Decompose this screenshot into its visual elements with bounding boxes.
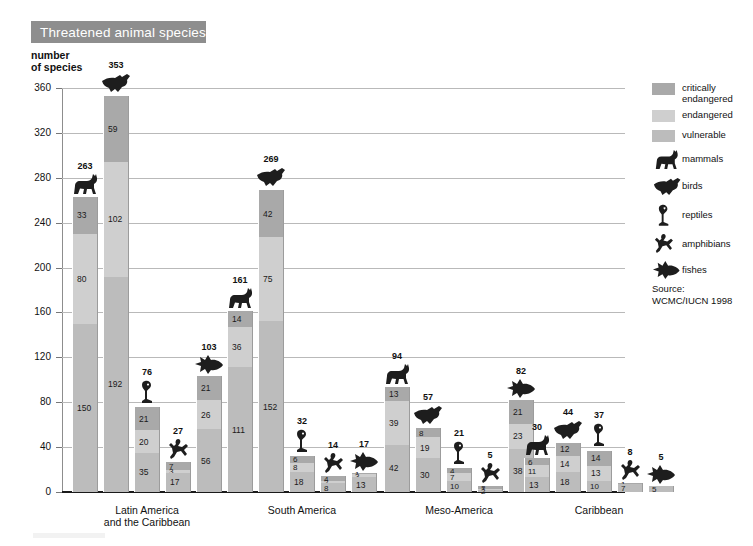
legend-item-endangered[interactable]: endangered bbox=[652, 109, 748, 124]
gridline bbox=[62, 178, 625, 179]
amphibian-icon bbox=[652, 233, 675, 254]
bar-mammals[interactable]: 1436111161 bbox=[227, 311, 253, 492]
y-tick-label: 280 bbox=[11, 172, 51, 183]
legend: critically endangeredendangeredvulnerabl… bbox=[652, 82, 748, 285]
bar-birds[interactable]: 12141844 bbox=[555, 443, 581, 492]
segment-value-label: 36 bbox=[232, 343, 241, 352]
legend-item-mammals[interactable]: mammals bbox=[652, 149, 748, 170]
bar-segment-vulnerable: 5 bbox=[648, 486, 674, 492]
bar-segment-vulnerable: 17 bbox=[165, 473, 191, 492]
gridline bbox=[62, 88, 625, 89]
bar-total-label: 94 bbox=[367, 351, 427, 361]
segment-value-label: 13 bbox=[356, 480, 365, 489]
legend-item-amphibians[interactable]: amphibians bbox=[652, 233, 748, 254]
bar-segment-endangered: 26 bbox=[196, 400, 222, 429]
category-label: Caribbean bbox=[504, 504, 694, 516]
bar-segment-critically-endangered: 6 bbox=[524, 458, 550, 465]
bar-fishes[interactable]: 55 bbox=[648, 486, 674, 492]
fish-icon bbox=[499, 378, 543, 398]
bird-icon bbox=[406, 404, 450, 426]
mammal-icon bbox=[63, 173, 107, 195]
segment-value-label: 8 bbox=[419, 428, 423, 437]
bar-segment-critically-endangered: 33 bbox=[72, 197, 98, 234]
segment-value-label: 42 bbox=[263, 209, 272, 218]
bar-fishes[interactable]: 131317 bbox=[351, 473, 377, 492]
legend-label: birds bbox=[682, 181, 703, 192]
segment-value-label: 102 bbox=[108, 215, 122, 224]
y-tick-mark bbox=[56, 268, 62, 269]
legend-label: endangered bbox=[682, 109, 733, 121]
bar-segment-endangered: 36 bbox=[227, 327, 253, 367]
segment-value-label: 75 bbox=[263, 275, 272, 284]
bar-total-label: 57 bbox=[398, 392, 458, 402]
bar-mammals[interactable]: 13394294 bbox=[384, 387, 410, 492]
bar-amphibians[interactable]: 42814 bbox=[320, 476, 346, 492]
fish-icon bbox=[187, 354, 231, 374]
y-tick-mark bbox=[56, 178, 62, 179]
bar-total-label: 269 bbox=[241, 154, 301, 164]
segment-value-label: 10 bbox=[590, 482, 599, 491]
segment-value-label: 26 bbox=[201, 410, 210, 419]
legend-swatch bbox=[652, 130, 675, 142]
bar-segment-vulnerable: 56 bbox=[196, 429, 222, 492]
y-tick-mark bbox=[56, 447, 62, 448]
legend-swatch bbox=[652, 110, 675, 122]
bar-segment-endangered: 11 bbox=[524, 465, 550, 477]
chart-canvas: Threatened animal species number of spec… bbox=[0, 0, 753, 546]
bar-segment-vulnerable: 7 bbox=[617, 484, 643, 492]
y-tick-mark bbox=[56, 312, 62, 313]
segment-value-label: 18 bbox=[560, 477, 569, 486]
y-tick-mark bbox=[56, 357, 62, 358]
legend-label: mammals bbox=[682, 154, 723, 165]
segment-value-label: 13 bbox=[591, 469, 600, 478]
bar-total-label: 5 bbox=[631, 452, 691, 462]
y-tick-mark bbox=[56, 133, 62, 134]
footer-artifact bbox=[33, 533, 105, 538]
segment-value-label: 42 bbox=[389, 464, 398, 473]
y-tick-label: 120 bbox=[11, 351, 51, 362]
segment-value-label: 150 bbox=[77, 403, 91, 412]
bar-segment-critically-endangered: 59 bbox=[103, 96, 129, 162]
bar-amphibians[interactable]: 731727 bbox=[165, 462, 191, 492]
bar-segment-critically-endangered: 14 bbox=[227, 311, 253, 327]
legend-item-reptiles[interactable]: reptiles bbox=[652, 203, 748, 228]
y-tick-mark bbox=[56, 492, 62, 493]
fish-icon bbox=[639, 464, 683, 484]
bar-total-label: 37 bbox=[569, 410, 629, 420]
legend-label: amphibians bbox=[682, 239, 731, 250]
legend-item-fishes[interactable]: fishes bbox=[652, 260, 748, 279]
legend-label: reptiles bbox=[682, 210, 713, 221]
amphibian-icon bbox=[156, 438, 200, 460]
bar-segment-vulnerable: 152 bbox=[258, 321, 284, 492]
segment-value-label: 11 bbox=[528, 467, 536, 476]
gridline bbox=[62, 223, 625, 224]
bar-mammals[interactable]: 3380150263 bbox=[72, 197, 98, 492]
bar-total-label: 21 bbox=[429, 428, 489, 438]
legend-label: vulnerable bbox=[682, 129, 726, 141]
gridline bbox=[62, 357, 625, 358]
segment-value-label: 30 bbox=[420, 471, 429, 480]
bar-mammals[interactable]: 6111330 bbox=[524, 458, 550, 492]
bar-total-label: 32 bbox=[272, 416, 332, 426]
segment-value-label: 8 bbox=[293, 463, 297, 472]
segment-value-label: 80 bbox=[77, 274, 86, 283]
bar-fishes[interactable]: 212656103 bbox=[196, 376, 222, 492]
legend-item-vulnerable[interactable]: vulnerable bbox=[652, 129, 748, 144]
mammal-icon bbox=[218, 287, 262, 309]
segment-value-label: 21 bbox=[139, 414, 148, 423]
segment-value-label: 38 bbox=[513, 466, 522, 475]
bar-segment-vulnerable: 150 bbox=[72, 324, 98, 492]
bar-segment-critically-endangered: 21 bbox=[196, 376, 222, 400]
y-tick-label: 40 bbox=[11, 441, 51, 452]
segment-value-label: 5 bbox=[652, 485, 656, 494]
y-tick-label: 240 bbox=[11, 217, 51, 228]
segment-value-label: 10 bbox=[450, 482, 459, 491]
bar-segment-vulnerable: 18 bbox=[555, 472, 581, 492]
bar-segment-vulnerable: 13 bbox=[524, 477, 550, 492]
bar-birds[interactable]: 59102192353 bbox=[103, 96, 129, 492]
legend-item-critically-endangered[interactable]: critically endangered bbox=[652, 82, 748, 104]
legend-item-birds[interactable]: birds bbox=[652, 176, 748, 197]
bar-segment-endangered: 75 bbox=[258, 237, 284, 321]
segment-value-label: 7 bbox=[621, 484, 625, 493]
bar-amphibians[interactable]: 2125 bbox=[477, 486, 503, 492]
